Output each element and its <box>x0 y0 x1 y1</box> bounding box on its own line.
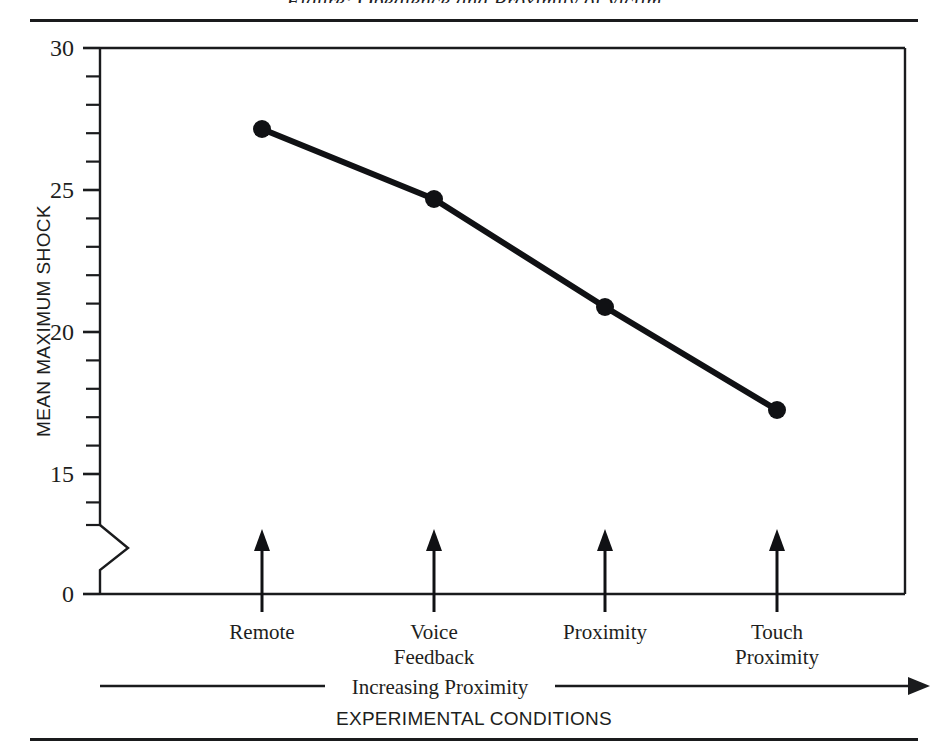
data-line <box>262 129 777 410</box>
data-points <box>253 120 786 419</box>
category-label-touch-proximity: Touch Proximity <box>682 620 872 670</box>
condition-arrow-voice-feedback <box>426 529 442 612</box>
y-tick-label-15: 15 <box>22 462 74 486</box>
y-axis-break-icon <box>100 525 128 594</box>
category-label-remote: Remote <box>167 620 357 645</box>
category-label-proximity: Proximity <box>510 620 700 645</box>
category-label-line: Voice <box>339 620 529 645</box>
data-point <box>596 298 614 316</box>
condition-arrow-proximity <box>597 529 613 612</box>
y-minor-ticks <box>86 76 100 525</box>
condition-arrow-remote <box>254 529 270 612</box>
y-major-ticks <box>83 48 100 594</box>
y-axis-title: MEAN MAXIMUM SHOCK <box>33 181 55 461</box>
category-label-voice-feedback: Voice Feedback <box>339 620 529 670</box>
x-axis-title: EXPERIMENTAL CONDITIONS <box>0 708 948 730</box>
figure-container: Figure: Obedience and Proximity of Victi… <box>0 0 948 755</box>
data-point <box>768 401 786 419</box>
category-label-line: Feedback <box>339 645 529 670</box>
y-axis <box>100 48 128 594</box>
increasing-proximity-label: Increasing Proximity <box>325 675 555 700</box>
plot-frame <box>100 48 905 594</box>
data-point <box>253 120 271 138</box>
y-tick-label-0: 0 <box>22 582 74 606</box>
category-label-line: Proximity <box>510 620 700 645</box>
category-label-line: Touch <box>682 620 872 645</box>
category-label-line: Proximity <box>682 645 872 670</box>
category-label-line: Remote <box>167 620 357 645</box>
data-point <box>425 190 443 208</box>
y-tick-label-30: 30 <box>22 36 74 60</box>
condition-arrow-touch-proximity <box>769 529 785 612</box>
condition-arrows <box>254 529 785 612</box>
